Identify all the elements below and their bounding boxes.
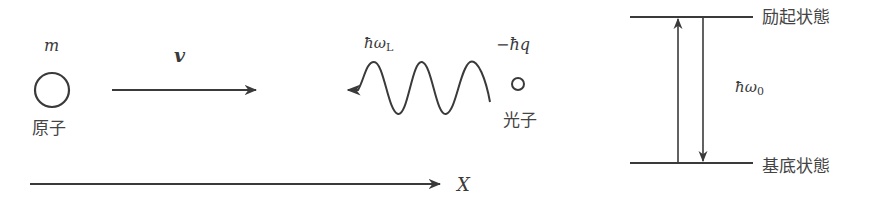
photon-energy-label: ħωL	[364, 36, 393, 53]
diagram-canvas	[0, 0, 880, 212]
velocity-label: v	[174, 46, 185, 65]
atom-name-label: 原子	[32, 120, 66, 137]
energy-gap-label: ħω0	[735, 80, 764, 97]
energy-gap-sub: 0	[757, 85, 764, 98]
atom-circle	[35, 73, 69, 107]
atom-mass-label: m	[44, 38, 59, 54]
photon-name-label: 光子	[503, 112, 537, 129]
photon-wave	[348, 62, 490, 115]
ground-state-label: 基底状態	[762, 158, 830, 175]
photon-momentum-label: −ħq	[496, 37, 530, 53]
x-axis-label: X	[457, 176, 470, 194]
excited-state-label: 励起状態	[762, 9, 830, 26]
photon-energy-main: ħω	[364, 34, 386, 52]
photon-energy-sub: L	[386, 41, 393, 54]
photon-circle	[512, 78, 524, 90]
energy-gap-main: ħω	[735, 78, 757, 96]
